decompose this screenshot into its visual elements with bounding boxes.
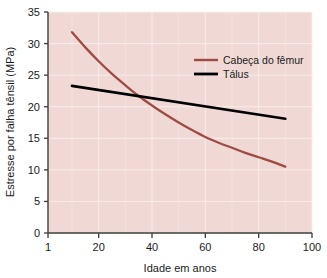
y-tick-label: 10 <box>28 164 40 176</box>
x-tick-label: 100 <box>303 241 321 253</box>
x-tick-label: 80 <box>253 241 265 253</box>
y-tick-label: 15 <box>28 132 40 144</box>
x-tick-label: 60 <box>199 241 211 253</box>
y-tick-label: 0 <box>34 227 40 239</box>
y-tick-label: 5 <box>34 195 40 207</box>
legend-label-1: Cabeça do fêmur <box>223 54 304 66</box>
y-tick-label: 25 <box>28 69 40 81</box>
y-tick-label: 30 <box>28 38 40 50</box>
chart-container: 05101520253035 120406080100 Estresse por… <box>0 0 327 278</box>
x-tick-label: 1 <box>45 241 51 253</box>
x-axis-title: Idade em anos <box>144 262 217 274</box>
y-tick-label: 35 <box>28 6 40 18</box>
legend-label-2: Tálus <box>223 68 249 80</box>
x-tick-label: 20 <box>93 241 105 253</box>
tensile-failure-stress-vs-age-chart: 05101520253035 120406080100 Estresse por… <box>0 0 327 278</box>
y-axis-title: Estresse por falha tênsil (MPa) <box>4 47 16 197</box>
x-axis-ticks: 120406080100 <box>45 233 321 253</box>
y-tick-label: 20 <box>28 101 40 113</box>
y-axis-ticks: 05101520253035 <box>28 6 48 239</box>
x-tick-label: 40 <box>146 241 158 253</box>
